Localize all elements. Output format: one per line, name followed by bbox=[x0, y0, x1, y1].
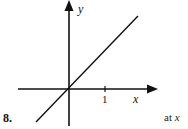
trailing-text: at x bbox=[164, 111, 180, 123]
x-axis-arrow-icon bbox=[147, 85, 158, 94]
data-line bbox=[36, 16, 138, 122]
y-axis-label: y bbox=[77, 2, 84, 16]
y-axis-arrow-icon bbox=[65, 0, 74, 11]
figure: 1 x y 8. at x bbox=[0, 0, 188, 129]
x-tick-label: 1 bbox=[102, 93, 108, 105]
trailing-word: at bbox=[164, 111, 172, 123]
trailing-variable: x bbox=[175, 111, 180, 123]
x-axis-label: x bbox=[132, 92, 139, 106]
problem-number: 8. bbox=[3, 111, 12, 126]
graph: 1 x y bbox=[0, 0, 188, 129]
